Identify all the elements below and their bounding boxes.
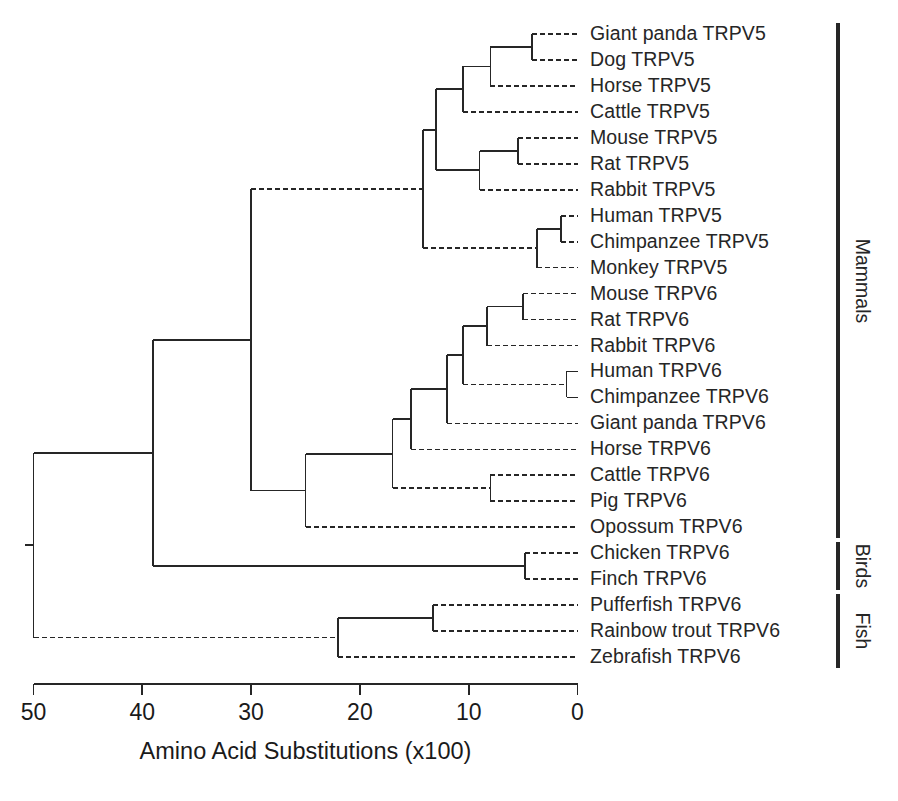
axis-tick-label: 20 <box>330 699 390 726</box>
tip-label: Rabbit TRPV6 <box>590 336 715 356</box>
tip-label: Dog TRPV5 <box>590 50 695 70</box>
axis-tick-label: 50 <box>4 699 64 726</box>
tip-label: Pig TRPV6 <box>590 491 687 511</box>
group-label: Mammals <box>851 238 874 323</box>
phylogenetic-tree-figure: Giant panda TRPV5Dog TRPV5Horse TRPV5Cat… <box>0 0 898 801</box>
tip-label: Monkey TRPV5 <box>590 258 727 278</box>
tip-label: Pufferfish TRPV6 <box>590 595 742 615</box>
tip-label: Rainbow trout TRPV6 <box>590 621 780 641</box>
tip-label: Chimpanzee TRPV6 <box>590 387 769 407</box>
axis-tick-label: 10 <box>439 699 499 726</box>
group-label: Birds <box>851 544 874 588</box>
axis-tick-label: 30 <box>221 699 281 726</box>
tip-label: Rat TRPV6 <box>590 310 689 330</box>
axis-title: Amino Acid Substitutions (x100) <box>0 738 611 765</box>
tip-label: Rat TRPV5 <box>590 154 689 174</box>
group-label: Fish <box>851 613 874 650</box>
tip-label: Horse TRPV6 <box>590 439 711 459</box>
tip-label: Mouse TRPV5 <box>590 128 718 148</box>
tip-label: Opossum TRPV6 <box>590 517 743 537</box>
tip-label: Horse TRPV5 <box>590 76 711 96</box>
tip-label: Giant panda TRPV5 <box>590 24 766 44</box>
tip-label: Human TRPV5 <box>590 206 722 226</box>
tip-label: Chimpanzee TRPV5 <box>590 232 769 252</box>
tip-label: Rabbit TRPV5 <box>590 180 715 200</box>
tip-label: Cattle TRPV5 <box>590 102 710 122</box>
tip-label: Human TRPV6 <box>590 361 722 381</box>
axis-tick-label: 0 <box>548 699 608 726</box>
tip-label: Mouse TRPV6 <box>590 284 718 304</box>
tip-label: Zebrafish TRPV6 <box>590 647 741 667</box>
tip-label: Cattle TRPV6 <box>590 465 710 485</box>
tip-label: Finch TRPV6 <box>590 569 707 589</box>
tip-label: Giant panda TRPV6 <box>590 413 766 433</box>
tip-label: Chicken TRPV6 <box>590 543 730 563</box>
axis-tick-label: 40 <box>112 699 172 726</box>
